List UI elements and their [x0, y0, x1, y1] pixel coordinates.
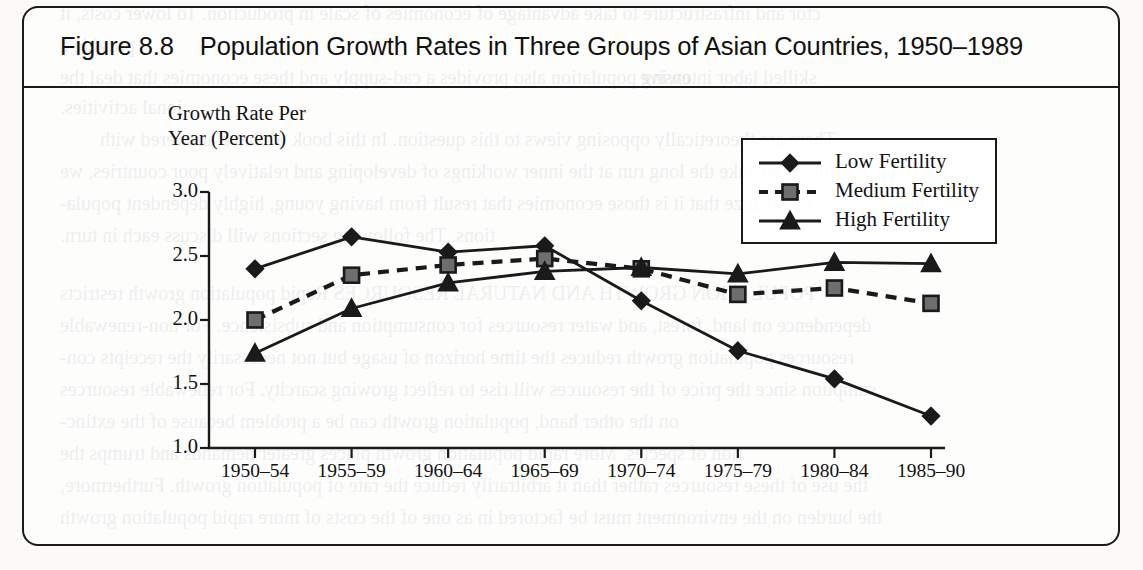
figure-screenshot: ctor and infrastructure to take advantag…	[0, 0, 1143, 570]
figure-number: Figure 8.8	[60, 32, 174, 60]
figure-title-bar: Figure 8.8Population Growth Rates in Thr…	[22, 6, 1120, 88]
figure-title: Figure 8.8Population Growth Rates in Thr…	[60, 32, 1023, 61]
figure-title-text: Population Growth Rates in Three Groups …	[200, 32, 1023, 60]
